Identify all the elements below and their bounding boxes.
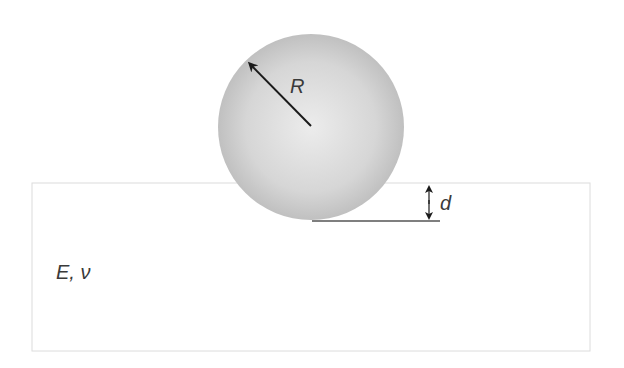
sphere xyxy=(218,34,404,220)
diagram-canvas: R d E, ν xyxy=(0,0,624,368)
material-label: E, ν xyxy=(56,261,90,283)
radius-label: R xyxy=(290,75,304,97)
depth-label: d xyxy=(440,192,452,214)
